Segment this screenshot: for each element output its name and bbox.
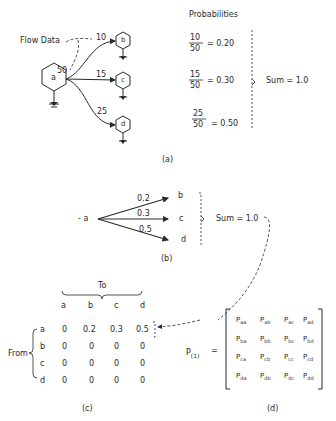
target-d: d <box>181 236 186 244</box>
prob-label-d: 0.5 <box>139 226 152 234</box>
cell-d-c: 0 <box>114 377 119 385</box>
equals-sign: = <box>211 347 218 355</box>
cell-c-b: 0 <box>89 360 94 368</box>
prob-num-b: 10 <box>190 34 200 42</box>
prob-label-b: 0.2 <box>137 195 150 203</box>
matrix-cell: Pbb <box>260 336 271 344</box>
flow-edges <box>66 41 115 125</box>
matrix-cell: Pbd <box>303 336 314 344</box>
col-header-d: d <box>140 302 145 310</box>
flow-data-pointers <box>66 38 92 70</box>
cell-a-c: 0.3 <box>110 326 123 334</box>
flow-value-c: 15 <box>96 71 106 79</box>
link-b-to-c <box>218 217 270 320</box>
cell-b-a: 0 <box>62 343 67 351</box>
matrix-cell: Pca <box>236 354 246 362</box>
cell-b-b: 0 <box>89 343 94 351</box>
row-label-d: d <box>40 377 45 385</box>
node-b-label: b <box>121 37 125 44</box>
matrix-cell: Pba <box>236 336 246 344</box>
sum-label-a: Sum = 1.0 <box>266 77 308 85</box>
row-label-a: a <box>40 326 45 334</box>
prob-den-c: 50 <box>190 82 200 90</box>
source-node: a <box>83 214 88 223</box>
matrix-cell: Pab <box>260 317 270 325</box>
sum-label-b: Sum = 1.0 <box>216 215 258 223</box>
cell-d-b: 0 <box>89 377 94 385</box>
prob-result-b: = 0.20 <box>207 40 234 48</box>
row-label-c: c <box>40 360 44 368</box>
flow-data-label: Flow Data <box>20 37 60 45</box>
matrix-cell: Pad <box>303 317 313 325</box>
col-header-c: c <box>114 302 118 310</box>
flow-value-b: 10 <box>96 34 106 42</box>
col-header-b: b <box>88 302 93 310</box>
matrix-cell: Pdb <box>260 373 271 381</box>
lhs-subscript: (1) <box>191 352 200 359</box>
prob-result-c: = 0.30 <box>207 77 234 85</box>
matrix-cell: Pdc <box>284 373 294 381</box>
caption-d: (d) <box>267 405 278 413</box>
source-node-label: - a <box>78 215 88 223</box>
cell-a-d: 0.5 <box>136 326 149 334</box>
matrix-lhs: P(1) <box>186 349 199 359</box>
matrix-cell: Pcd <box>303 354 313 362</box>
matrix-cell: Pdd <box>303 373 314 381</box>
total-flow-value: 50 <box>57 67 67 75</box>
prob-edges <box>98 198 168 240</box>
caption-c: (c) <box>82 405 93 413</box>
caption-b: (b) <box>161 255 172 263</box>
to-brace <box>62 291 142 299</box>
cell-b-d: 0 <box>140 343 145 351</box>
target-c: c <box>179 215 183 223</box>
cell-b-c: 0 <box>114 343 119 351</box>
cell-c-a: 0 <box>62 360 67 368</box>
flow-value-d: 25 <box>97 108 107 116</box>
prob-num-c: 15 <box>190 71 200 79</box>
cell-c-c: 0 <box>114 360 119 368</box>
matrix-cell: Pbc <box>284 336 294 344</box>
prob-result-d: = 0.50 <box>211 120 238 128</box>
from-brace <box>29 329 37 378</box>
cell-a-a: 0 <box>62 326 67 334</box>
probabilities-title: Probabilities <box>189 11 238 19</box>
node-a-label: a <box>51 74 56 82</box>
cell-a-b: 0.2 <box>83 326 96 334</box>
matrix-cell: Pcb <box>260 354 270 362</box>
caption-a: (a) <box>162 156 173 164</box>
matrix-cell: Pda <box>236 373 246 381</box>
cell-d-d: 0 <box>140 377 145 385</box>
cell-c-d: 0 <box>140 360 145 368</box>
prob-den-d: 50 <box>193 121 203 129</box>
prob-num-d: 25 <box>193 110 203 118</box>
to-label: To <box>98 282 106 290</box>
node-c-label: c <box>121 77 125 84</box>
target-b: b <box>178 192 183 200</box>
matrix-cell: Paa <box>236 317 246 325</box>
matrix-cell: Pac <box>284 317 294 325</box>
cell-d-a: 0 <box>62 377 67 385</box>
matrix-cell: Pcc <box>284 354 294 362</box>
prob-den-b: 50 <box>190 45 200 53</box>
prob-label-c: 0.3 <box>137 210 150 218</box>
row-label-b: b <box>40 343 45 351</box>
node-d-label: d <box>121 121 125 128</box>
from-label: From <box>8 350 28 358</box>
col-header-a: a <box>61 302 66 310</box>
